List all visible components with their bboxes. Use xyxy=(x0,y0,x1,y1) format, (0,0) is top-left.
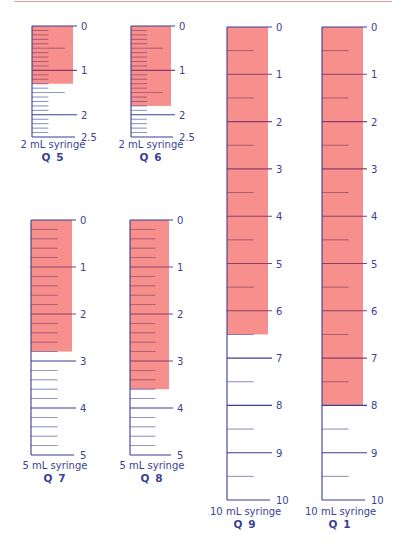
tick-label: 1 xyxy=(371,69,377,80)
tick-label: 6 xyxy=(371,306,377,317)
tick-label: 5 xyxy=(371,259,377,270)
syringe-caption: 10 mL syringeQ 1 xyxy=(305,506,375,531)
question-label: Q 1 xyxy=(305,518,375,531)
tick-label: 9 xyxy=(371,448,377,459)
tick-label: 4 xyxy=(371,211,377,222)
tick-label: 3 xyxy=(371,164,377,175)
tick-label: 10 xyxy=(371,495,384,506)
tick-label: 7 xyxy=(371,353,377,364)
syringe-type-label: 10 mL syringe xyxy=(305,506,375,518)
tick-label: 0 xyxy=(371,22,377,33)
tick-label: 2 xyxy=(371,117,377,128)
tick-label: 8 xyxy=(371,400,377,411)
syringe-scale-q1: 012345678910 xyxy=(0,0,403,546)
